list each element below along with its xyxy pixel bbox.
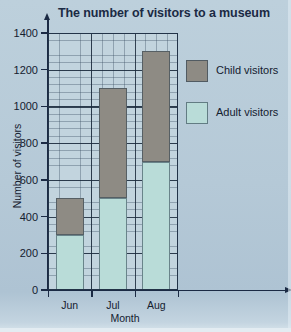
legend-swatch [186, 102, 208, 124]
x-axis-title: Month [90, 312, 160, 324]
x-axis-tick [178, 290, 179, 297]
x-axis-tick-label-aug: Aug [133, 299, 179, 311]
x-axis-tick [135, 290, 136, 297]
y-axis-tick [41, 106, 48, 107]
y-axis-tick-label: 1400 [0, 27, 38, 39]
legend-swatch [186, 60, 208, 82]
x-axis-tick-label-jul: Jul [90, 299, 136, 311]
x-axis-tick [48, 290, 49, 297]
y-axis-tick [41, 142, 48, 143]
legend-label: Adult visitors [216, 106, 278, 118]
bar-segment[interactable] [56, 235, 84, 290]
y-axis-tick [41, 216, 48, 217]
legend-label: Child visitors [216, 64, 278, 76]
bar-segment[interactable] [99, 88, 127, 198]
y-axis-title: Number of visitors [11, 106, 23, 226]
bar-segment[interactable] [142, 51, 170, 161]
y-axis-tick [41, 32, 48, 33]
chart-title: The number of visitors to a museum [58, 6, 288, 20]
bar-segment[interactable] [142, 162, 170, 291]
bar-group-aug[interactable] [142, 33, 170, 290]
bar-segment[interactable] [99, 198, 127, 290]
y-axis-tick [41, 179, 48, 180]
y-axis-tick [41, 69, 48, 70]
legend-item[interactable]: Child visitors [186, 60, 286, 84]
y-axis-tick-label: 200 [0, 247, 38, 259]
y-axis-tick [41, 289, 48, 290]
plot-area [48, 33, 178, 290]
y-axis-tick-label: 0 [0, 284, 38, 296]
x-axis-tick [91, 290, 92, 297]
bar-segment[interactable] [56, 198, 84, 235]
y-axis-tick [41, 253, 48, 254]
y-axis-arrow-icon [44, 13, 50, 20]
x-axis-tick-label-jun: Jun [47, 299, 93, 311]
y-axis-tick-label: 1200 [0, 64, 38, 76]
chart-page: The number of visitors to a museum 02004… [0, 0, 291, 332]
bar-group-jul[interactable] [99, 33, 127, 290]
page-edge-right [288, 0, 291, 332]
bar-group-jun[interactable] [56, 33, 84, 290]
legend: Child visitorsAdult visitors [186, 60, 286, 144]
legend-item[interactable]: Adult visitors [186, 102, 286, 126]
page-edge-bottom [0, 328, 291, 332]
